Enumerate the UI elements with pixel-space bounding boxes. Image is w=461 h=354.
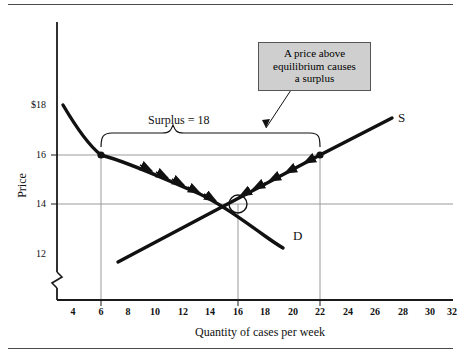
x-tick-label-18: 18 (255, 306, 275, 317)
demand-curve-label: D (293, 228, 302, 244)
callout-leader-line (266, 90, 291, 128)
supply-curve (118, 118, 392, 262)
x-tick-label-6: 6 (91, 306, 111, 317)
x-tick-label-16: 16 (228, 306, 248, 317)
y-tick-label-12: 12 (18, 248, 46, 259)
x-tick-label-20: 20 (283, 306, 303, 317)
callout-line-3: a surplus (261, 72, 368, 85)
y-axis-title: Price (15, 156, 30, 216)
x-axis-title: Quantity of cases per week (140, 325, 380, 340)
surplus-bracket (101, 125, 320, 147)
x-tick-label-26: 26 (365, 306, 385, 317)
x-tick-label-4: 4 (63, 306, 83, 317)
x-tick-label-28: 28 (393, 306, 413, 317)
callout-line-2: equilibrium causes (261, 60, 368, 73)
x-tick-label-24: 24 (338, 306, 358, 317)
surplus-label: Surplus = 18 (148, 113, 209, 128)
point-quantity-supplied (316, 151, 323, 158)
supply-demand-figure: $18 16 14 12 Price 4 6 8 10 12 14 16 18 … (0, 0, 461, 354)
x-tick-label-8: 8 (118, 306, 138, 317)
callout-box: A price above equilibrium causes a surpl… (258, 42, 371, 91)
supply-curve-label: S (398, 110, 405, 126)
x-tick-label-30: 30 (420, 306, 440, 317)
axis-break-icon (52, 272, 62, 288)
x-tick-label-22: 22 (310, 306, 330, 317)
x-tick-label-32: 32 (442, 306, 461, 317)
x-tick-label-14: 14 (200, 306, 220, 317)
x-tick-label-12: 12 (173, 306, 193, 317)
axis-lines (52, 22, 453, 300)
x-tick-label-10: 10 (145, 306, 165, 317)
chart-canvas (0, 0, 461, 354)
callout-line-1: A price above (261, 47, 368, 60)
point-quantity-demanded (97, 151, 104, 158)
y-tick-label-18: $18 (18, 99, 46, 110)
